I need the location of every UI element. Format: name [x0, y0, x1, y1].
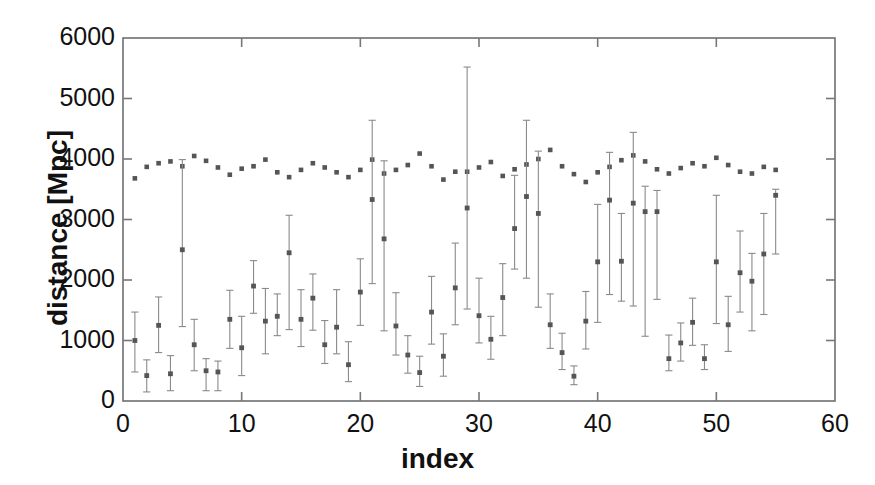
data-point-marker: [655, 209, 660, 214]
data-point-marker: [429, 310, 434, 315]
data-point-marker: [156, 323, 161, 328]
data-point-marker: [299, 317, 304, 322]
y-tick-label: 6000: [59, 22, 115, 51]
x-tick-label: 10: [202, 409, 282, 438]
data-point-marker: [441, 354, 446, 359]
data-point-marker: [263, 319, 268, 324]
data-point-marker: [548, 148, 553, 153]
data-point-marker: [572, 374, 577, 379]
data-point-marker: [406, 163, 411, 168]
data-point-marker: [489, 160, 494, 165]
data-point-marker: [287, 175, 292, 180]
data-point-marker: [465, 206, 470, 211]
data-point-marker: [714, 155, 719, 160]
data-point-marker: [334, 170, 339, 175]
x-tick-label: 0: [83, 409, 163, 438]
data-point-marker: [239, 166, 244, 171]
data-point-marker: [263, 157, 268, 162]
chart-root: distance [Mpc] index 0100020003000400050…: [0, 0, 875, 485]
data-point-marker: [726, 322, 731, 327]
data-point-marker: [358, 168, 363, 173]
data-point-marker: [690, 161, 695, 166]
data-point-marker: [322, 342, 327, 347]
data-point-marker: [417, 151, 422, 156]
data-point-marker: [773, 193, 778, 198]
data-point-marker: [560, 350, 565, 355]
data-point-marker: [488, 337, 493, 342]
data-point-marker: [678, 341, 683, 346]
data-point-marker: [239, 345, 244, 350]
data-point-marker: [583, 319, 588, 324]
data-point-marker: [453, 285, 458, 290]
data-point-marker: [773, 168, 778, 173]
x-tick-label: 20: [320, 409, 400, 438]
data-point-marker: [334, 325, 339, 330]
data-point-marker: [310, 296, 315, 301]
data-point-marker: [204, 368, 209, 373]
data-point-marker: [346, 362, 351, 367]
series-lower-series-with-errorbars: [131, 67, 779, 392]
data-point-marker: [311, 161, 316, 166]
data-point-marker: [619, 259, 624, 264]
x-tick-label: 40: [558, 409, 638, 438]
y-tick-label: 5000: [59, 83, 115, 112]
data-point-marker: [405, 353, 410, 358]
x-tick-label: 30: [439, 409, 519, 438]
data-point-marker: [346, 175, 351, 180]
data-point-marker: [275, 314, 280, 319]
data-point-marker: [702, 164, 707, 169]
y-tick-label: 2000: [59, 264, 115, 293]
data-point-marker: [251, 164, 256, 169]
y-tick-label: 1000: [59, 325, 115, 354]
data-point-marker: [477, 313, 482, 318]
data-point-marker: [204, 159, 209, 164]
data-point-marker: [144, 165, 149, 170]
data-point-marker: [216, 165, 221, 170]
data-point-marker: [477, 165, 482, 170]
data-point-marker: [726, 163, 731, 168]
data-point-marker: [595, 170, 600, 175]
data-point-marker: [394, 168, 399, 173]
data-point-marker: [524, 194, 529, 199]
data-point-marker: [643, 209, 648, 214]
data-point-marker: [761, 252, 766, 257]
data-point-marker: [750, 171, 755, 176]
series-upper-series-no-errorbars: [133, 148, 778, 185]
data-point-marker: [536, 211, 541, 216]
data-point-marker: [133, 176, 138, 181]
data-point-marker: [500, 174, 505, 179]
data-point-marker: [453, 169, 458, 174]
data-point-marker: [560, 164, 565, 169]
data-point-marker: [619, 158, 624, 163]
data-point-marker: [156, 161, 161, 166]
data-point-marker: [227, 317, 232, 322]
data-point-marker: [192, 342, 197, 347]
data-point-marker: [417, 370, 422, 375]
data-point-marker: [192, 154, 197, 159]
data-point-marker: [762, 165, 767, 170]
data-point-marker: [595, 259, 600, 264]
data-point-marker: [287, 250, 292, 255]
y-tick-label: 4000: [59, 143, 115, 172]
data-point-marker: [666, 356, 671, 361]
data-point-marker: [572, 172, 577, 177]
data-point-marker: [678, 166, 683, 171]
data-point-marker: [667, 171, 672, 176]
data-point-marker: [690, 320, 695, 325]
data-point-marker: [714, 259, 719, 264]
data-point-marker: [394, 324, 399, 329]
data-point-marker: [228, 172, 233, 177]
data-point-marker: [738, 270, 743, 275]
data-point-marker: [512, 167, 517, 172]
data-point-marker: [251, 284, 256, 289]
data-point-marker: [512, 226, 517, 231]
data-point-marker: [322, 165, 327, 170]
data-point-marker: [750, 279, 755, 284]
data-point-marker: [370, 197, 375, 202]
data-point-marker: [180, 247, 185, 252]
data-point-marker: [168, 159, 173, 164]
data-point-marker: [441, 177, 446, 182]
data-point-marker: [299, 168, 304, 173]
data-point-marker: [144, 373, 149, 378]
data-point-marker: [275, 170, 280, 175]
